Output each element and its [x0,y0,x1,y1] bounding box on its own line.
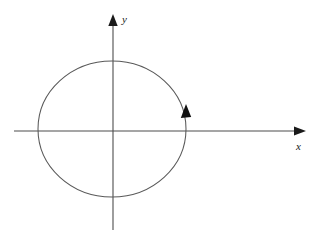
circle-curve [38,61,186,197]
y-axis-label: y [121,13,127,25]
figure-canvas: y x [0,0,313,240]
circle-orientation-diagram: y x [0,0,313,240]
x-axis-label: x [295,140,301,152]
y-axis-arrowhead [108,14,117,26]
x-axis-arrowhead [294,127,306,136]
